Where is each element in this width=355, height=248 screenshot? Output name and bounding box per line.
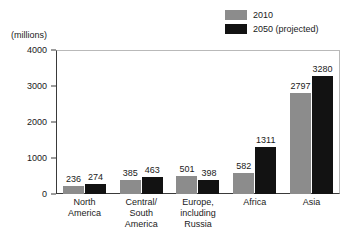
bar-item[interactable]: 2797 [290,50,311,194]
x-axis-label-line: including [170,208,227,219]
bar-group: 501398 [170,50,227,194]
x-axis-label-line: America [56,208,113,219]
y-tick-label-1000: 1000 [27,154,47,163]
x-axis-label: Central/SouthAmerica [113,197,170,230]
x-axis-label: Africa [226,197,283,230]
bar-value-label: 1311 [256,136,275,145]
bar-series-2010[interactable] [176,176,197,194]
y-tick-label-0: 0 [42,190,47,199]
x-axis-label-line: Asia [283,197,340,208]
bar-series-2050[interactable] [142,177,163,194]
x-axis-label-line: America [113,219,170,230]
legend-item-2010: 2010 [225,9,319,20]
x-axis-label-line: Europe, [170,197,227,208]
legend-swatch-2010 [225,10,247,20]
bar-item[interactable]: 274 [85,50,106,194]
bar-series-2050[interactable] [255,147,276,194]
legend-label-2050: 2050 (projected) [253,24,319,34]
bar-item[interactable]: 385 [120,50,141,194]
bar-series-2050[interactable] [198,180,219,194]
bar-value-label: 398 [201,169,216,178]
bar-value-label: 236 [66,175,81,184]
bar-group: 385463 [113,50,170,194]
x-axis-label-line: South [113,208,170,219]
x-axis-label: Asia [283,197,340,230]
bar-value-label: 385 [123,169,138,178]
x-axis-label-line: North [56,197,113,208]
bar-item[interactable]: 582 [233,50,254,194]
bar-item[interactable]: 463 [142,50,163,194]
bar-value-label: 274 [88,173,103,182]
bar-group: 236274 [56,50,113,194]
bar-item[interactable]: 1311 [255,50,276,194]
bar-value-label: 582 [236,162,251,171]
x-axis-label-line: Russia [170,219,227,230]
bar-item[interactable]: 236 [63,50,84,194]
bar-series-2010[interactable] [120,180,141,194]
y-axis: 40003000200010000 [0,50,56,195]
bar-group: 27973280 [283,50,340,194]
bar-groups: 236274385463501398582131127973280 [56,50,340,194]
bar-item[interactable]: 501 [176,50,197,194]
bar-value-label: 3280 [313,65,333,74]
bar-value-label: 463 [145,166,160,175]
bar-item[interactable]: 3280 [312,50,333,194]
x-axis-label-line: Central/ [113,197,170,208]
y-tick-label-3000: 3000 [27,82,47,91]
bar-value-label: 501 [179,165,194,174]
x-axis-category-labels: NorthAmericaCentral/SouthAmericaEurope,i… [56,197,340,230]
x-axis-label: NorthAmerica [56,197,113,230]
legend-swatch-2050 [225,24,247,34]
bar-series-2050[interactable] [312,76,333,194]
bar-value-label: 2797 [291,82,311,91]
legend-label-2010: 2010 [253,10,273,20]
bar-series-2050[interactable] [85,184,106,194]
bar-series-2010[interactable] [63,186,84,194]
x-axis-label-line: Africa [226,197,283,208]
bar-series-2010[interactable] [290,93,311,194]
bar-item[interactable]: 398 [198,50,219,194]
bar-chart-figure: 2010 2050 (projected) (millions) 4000300… [0,0,355,248]
chart-legend: 2010 2050 (projected) [225,9,319,34]
y-tick-label-4000: 4000 [27,46,47,55]
legend-item-2050: 2050 (projected) [225,23,319,34]
y-axis-unit-label: (millions) [11,30,47,40]
x-axis-label: Europe,includingRussia [170,197,227,230]
bar-group: 5821311 [226,50,283,194]
y-tick-label-2000: 2000 [27,118,47,127]
bar-series-2010[interactable] [233,173,254,194]
